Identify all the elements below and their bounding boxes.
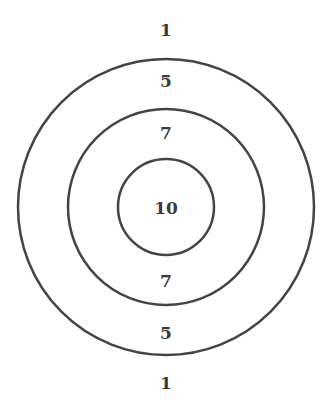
label-bottom-outer-band: 5 bbox=[160, 323, 172, 343]
label-bottom-outside: 1 bbox=[160, 373, 172, 393]
label-top-middle-band: 7 bbox=[160, 123, 172, 143]
label-center: 10 bbox=[154, 198, 178, 218]
label-top-outer-band: 5 bbox=[160, 71, 172, 91]
label-top-outside: 1 bbox=[160, 20, 172, 40]
label-bottom-middle-band: 7 bbox=[160, 271, 172, 291]
target-diagram: 1 5 7 10 7 5 1 bbox=[0, 0, 330, 405]
